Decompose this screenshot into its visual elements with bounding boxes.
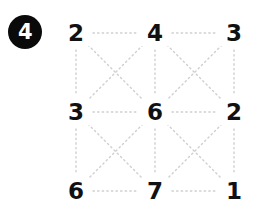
puzzle-canvas: 4 243362671 [0, 0, 253, 211]
grid-edge-diagonal [88, 124, 143, 179]
grid-edge-diagonal [167, 45, 222, 100]
grid-node-r1c1[interactable]: 6 [140, 99, 170, 125]
grid-edge-diagonal [88, 124, 143, 179]
grid-node-value: 4 [147, 22, 163, 45]
grid-edges [0, 0, 253, 211]
grid-node-value: 1 [226, 180, 242, 203]
grid-node-value: 6 [68, 180, 84, 203]
grid-edge-diagonal [167, 124, 222, 179]
grid-node-value: 7 [147, 180, 163, 203]
grid-edge-diagonal [167, 124, 222, 179]
grid-node-value: 2 [226, 101, 242, 124]
grid-node-value: 2 [68, 22, 84, 45]
grid-node-r0c0[interactable]: 2 [61, 20, 91, 46]
grid-node-r2c1[interactable]: 7 [140, 178, 170, 204]
grid-node-r2c2[interactable]: 1 [219, 178, 249, 204]
grid-node-value: 3 [68, 101, 84, 124]
grid-node-r1c0[interactable]: 3 [61, 99, 91, 125]
grid-edge-diagonal [88, 45, 143, 100]
number-grid: 243362671 [0, 0, 253, 211]
grid-node-r0c2[interactable]: 3 [219, 20, 249, 46]
grid-node-value: 3 [226, 22, 242, 45]
grid-edge-diagonal [88, 45, 143, 100]
grid-node-r1c2[interactable]: 2 [219, 99, 249, 125]
grid-node-value: 6 [147, 101, 163, 124]
grid-edge-diagonal [167, 45, 222, 100]
grid-node-r0c1[interactable]: 4 [140, 20, 170, 46]
grid-node-r2c0[interactable]: 6 [61, 178, 91, 204]
